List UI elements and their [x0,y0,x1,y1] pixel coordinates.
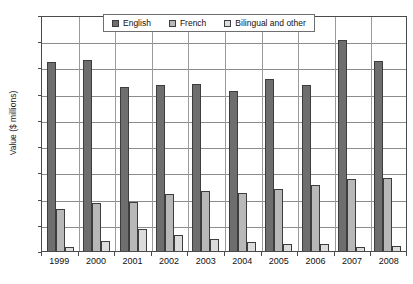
chart-legend: EnglishFrenchBilingual and other [103,14,315,32]
bar-chart: Value ($ millions) 02004006008001,0001,2… [0,0,413,284]
bar[interactable] [392,246,401,251]
bar[interactable] [201,191,210,251]
legend-label: French [180,18,206,28]
bar[interactable] [383,178,392,251]
bar[interactable] [229,91,238,251]
bar[interactable] [283,244,292,251]
bar[interactable] [83,60,92,251]
x-axis-tick-label: 2004 [224,256,261,272]
bar-group [333,17,369,251]
bar[interactable] [347,179,356,251]
legend-item[interactable]: French [169,18,206,28]
bar-group [78,17,114,251]
legend-label: Bilingual and other [235,18,305,28]
bar[interactable] [65,247,74,251]
bar[interactable] [302,85,311,251]
bar[interactable] [120,87,129,251]
bar[interactable] [311,185,320,251]
x-axis-tick-label: 2001 [114,256,151,272]
plot-area [41,16,407,252]
bar-group [224,17,260,251]
bar[interactable] [374,61,383,251]
x-axis-tick-label: 2002 [151,256,188,272]
bar[interactable] [320,244,329,251]
bar[interactable] [174,235,183,251]
bar[interactable] [192,84,201,251]
bar-group [260,17,296,251]
legend-item[interactable]: Bilingual and other [224,18,305,28]
legend-swatch-icon [169,20,176,27]
bar-group [42,17,78,251]
legend-swatch-icon [224,20,231,27]
bar-groups [42,17,406,251]
bar-group [115,17,151,251]
bar[interactable] [92,203,101,252]
bar[interactable] [356,247,365,251]
bar[interactable] [47,62,56,251]
bar[interactable] [338,40,347,251]
y-axis-title: Value ($ millions) [8,53,18,193]
bar[interactable] [101,241,110,251]
x-axis-tick-label: 2008 [370,256,407,272]
bar[interactable] [238,193,247,251]
bar[interactable] [156,85,165,251]
bar-group [151,17,187,251]
x-axis-tick-labels: 1999200020012002200320042005200620072008 [41,256,407,272]
legend-item[interactable]: English [112,18,151,28]
x-axis-tick-label: 2007 [334,256,371,272]
bar[interactable] [56,209,65,251]
bar[interactable] [210,239,219,251]
bar[interactable] [247,242,256,251]
bar[interactable] [138,229,147,251]
x-axis-tick-label: 2003 [187,256,224,272]
bar-group [297,17,333,251]
bar[interactable] [165,194,174,251]
x-axis-tick-label: 2006 [297,256,334,272]
x-axis-tick-label: 1999 [41,256,78,272]
x-axis-tick-label: 2000 [78,256,115,272]
bar[interactable] [265,79,274,251]
bar-group [188,17,224,251]
x-axis-tick-label: 2005 [261,256,298,272]
bar-group [370,17,406,251]
legend-label: English [123,18,151,28]
bar[interactable] [274,189,283,251]
bar[interactable] [129,202,138,251]
legend-swatch-icon [112,20,119,27]
